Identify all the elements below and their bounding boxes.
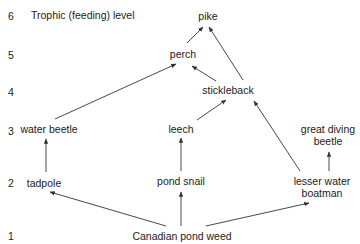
level-3-label: 3 bbox=[8, 125, 14, 137]
arrow-waterbeetle-to-perch bbox=[55, 64, 176, 119]
node-lesser-water-boatman-line1: lesser water bbox=[294, 175, 351, 187]
node-water-beetle: water beetle bbox=[20, 123, 77, 135]
node-tadpole: tadpole bbox=[27, 177, 61, 189]
arrow-weed-to-tadpole bbox=[50, 192, 166, 226]
node-pond-snail: pond snail bbox=[157, 175, 205, 187]
arrow-perch-to-pike bbox=[187, 27, 203, 43]
arrow-leech-to-stickleback bbox=[197, 100, 226, 120]
node-leech: leech bbox=[168, 123, 193, 135]
level-2-label: 2 bbox=[8, 177, 14, 189]
arrow-stickleback-to-perch bbox=[192, 66, 216, 81]
node-canadian-pond-weed: Canadian pond weed bbox=[132, 230, 231, 242]
level-6-label: 6 bbox=[8, 10, 14, 22]
node-stickleback: stickleback bbox=[202, 84, 253, 96]
food-web-arrows bbox=[0, 0, 360, 244]
node-pike: pike bbox=[198, 10, 217, 22]
arrow-boatman-to-stickleback bbox=[254, 101, 300, 171]
node-great-diving-beetle-line2: beetle bbox=[314, 135, 343, 147]
node-great-diving-beetle-line1: great diving bbox=[301, 123, 355, 135]
node-lesser-water-boatman-line2: boatman bbox=[302, 187, 343, 199]
level-1-label: 1 bbox=[8, 230, 14, 242]
diagram-title: Trophic (feeding) level bbox=[31, 9, 135, 21]
node-perch: perch bbox=[170, 48, 196, 60]
arrow-weed-to-boatman bbox=[206, 203, 309, 226]
arrow-stickleback-to-pike bbox=[209, 27, 243, 80]
level-5-label: 5 bbox=[8, 49, 14, 61]
level-4-label: 4 bbox=[8, 86, 14, 98]
